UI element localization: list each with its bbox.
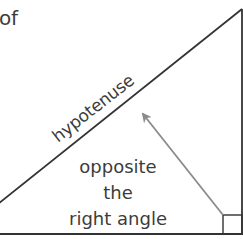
opposite-right-angle-annotation: opposite the right angle xyxy=(68,154,168,232)
annotation-line-2: the xyxy=(68,180,168,206)
right-angle-marker xyxy=(223,215,242,234)
partial-heading-text: of xyxy=(0,6,18,30)
annotation-line-3: right angle xyxy=(68,206,168,232)
annotation-line-1: opposite xyxy=(68,154,168,180)
